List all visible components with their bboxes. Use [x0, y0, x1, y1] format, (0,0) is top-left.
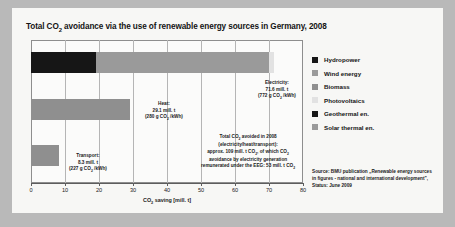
- bar-electricity: [31, 52, 274, 73]
- annotation-electricity-line-1: Electricity:: [258, 80, 296, 87]
- bar-transport: [31, 145, 59, 166]
- legend-swatch-icon: [312, 57, 318, 63]
- annotation-heat-line-1: Heat:: [145, 101, 183, 108]
- x-tick-label-20: 20: [96, 187, 102, 193]
- source-note: Source: BMU publication „Renewable energ…: [312, 168, 440, 189]
- annotation-transport-line-1: Transport:: [69, 153, 107, 160]
- x-tick-label-80: 80: [300, 187, 306, 193]
- legend-swatch-icon: [312, 84, 318, 90]
- legend-item-photovoltaics[interactable]: Photovoltaics: [312, 94, 437, 108]
- chart-title: Total CO2 avoidance via the use of renew…: [26, 22, 327, 33]
- bar-segment-biomass: [31, 99, 130, 120]
- legend-item-wind-energy[interactable]: Wind energy: [312, 67, 437, 81]
- source-line-2: in figures - national and international …: [312, 175, 440, 182]
- annotation-heat: Heat:29.1 mill. t(280 g CO2 /kWh): [145, 101, 183, 122]
- source-line-3: Status: June 2009: [312, 182, 440, 189]
- legend-item-label: Biomass: [324, 83, 350, 90]
- bar-segment-photovoltaics: [269, 52, 274, 73]
- x-tick-label-60: 60: [232, 187, 238, 193]
- legend-item-label: Wind energy: [324, 70, 361, 77]
- bar-heat: [31, 99, 130, 120]
- annotation-total: Total CO2 avoided in 2008(electricity/he…: [201, 134, 295, 171]
- x-tick-30: [133, 183, 134, 186]
- x-tick-20: [99, 183, 100, 186]
- annotation-electricity-line-2: 71.6 mill. t: [258, 87, 296, 94]
- legend-swatch-icon: [312, 70, 318, 76]
- legend-item-label: Hydropower: [324, 56, 360, 63]
- source-line-1: Source: BMU publication „Renewable energ…: [312, 168, 440, 175]
- x-tick-10: [65, 183, 66, 186]
- bar-segment-biomass: [31, 145, 59, 166]
- annotation-transport-line-3: (227 g CO2 /kWh): [69, 166, 107, 174]
- annotation-heat-line-3: (280 g CO2 /kWh): [145, 114, 183, 122]
- annotation-transport-line-2: 8.3 mill. t: [69, 160, 107, 167]
- legend-item-solar-thermal-en-[interactable]: Solar thermal en.: [312, 121, 437, 135]
- legend-item-biomass[interactable]: Biomass: [312, 80, 437, 94]
- x-tick-label-50: 50: [198, 187, 204, 193]
- x-tick-50: [201, 183, 202, 186]
- annotation-transport: Transport:8.3 mill. t(227 g CO2 /kWh): [69, 153, 107, 174]
- x-tick-label-70: 70: [266, 187, 272, 193]
- x-tick-80: [303, 183, 304, 186]
- legend-item-label: Solar thermal en.: [324, 124, 374, 131]
- annotation-total-line-3: approx. 109 mill. t CO2, of which CO2: [201, 149, 295, 157]
- bar-segment-hydropower: [31, 52, 96, 73]
- x-tick-label-40: 40: [164, 187, 170, 193]
- annotation-total-line-2: (electricity/heat/transport):: [201, 142, 295, 149]
- annotation-heat-line-2: 29.1 mill. t: [145, 108, 183, 115]
- x-tick-70: [269, 183, 270, 186]
- chart-legend: HydropowerWind energyBiomassPhotovoltaic…: [312, 53, 437, 134]
- legend-item-hydropower[interactable]: Hydropower: [312, 53, 437, 67]
- x-tick-40: [167, 183, 168, 186]
- x-axis-title: CO2 saving [mill. t]: [143, 197, 191, 205]
- legend-item-label: Geothermal en.: [324, 110, 369, 117]
- annotation-total-line-4: avoidance by electricity generation: [201, 157, 295, 164]
- legend-swatch-icon: [312, 124, 318, 130]
- legend-swatch-icon: [312, 111, 318, 117]
- x-tick-label-30: 30: [130, 187, 136, 193]
- x-tick-label-10: 10: [62, 187, 68, 193]
- x-tick-label-0: 0: [29, 187, 32, 193]
- chart-figure: Total CO2 avoidance via the use of renew…: [12, 8, 443, 213]
- x-axis: 01020304050607080 CO2 saving [mill. t]: [31, 183, 303, 209]
- x-tick-60: [235, 183, 236, 186]
- annotation-electricity: Electricity:71.6 mill. t(772 g CO2 /kWh): [258, 80, 296, 101]
- annotation-total-line-1: Total CO2 avoided in 2008: [201, 134, 295, 142]
- bar-segment-wind-energy: [96, 52, 269, 73]
- legend-swatch-icon: [312, 97, 318, 103]
- annotation-total-line-5: remunerated under the EEG: 53 mill. t CO…: [201, 163, 295, 171]
- legend-item-label: Photovoltaics: [324, 97, 365, 104]
- annotation-electricity-line-3: (772 g CO2 /kWh): [258, 93, 296, 101]
- legend-item-geothermal-en-[interactable]: Geothermal en.: [312, 107, 437, 121]
- x-tick-0: [31, 183, 32, 186]
